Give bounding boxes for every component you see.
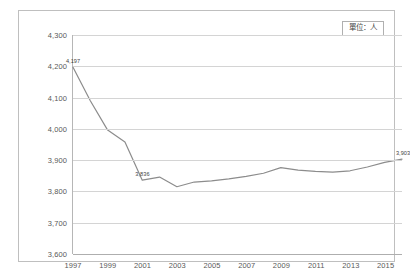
plot-area: 4,3004,2004,1004,0003,9003,8003,7003,600…	[72, 35, 402, 254]
y-axis-tick-label: 4,000	[48, 124, 67, 133]
gridline-y-4300	[73, 35, 402, 36]
gridline-y-3900	[73, 160, 402, 161]
x-axis-tick-label: 2007	[238, 261, 255, 270]
y-axis-tick-label: 3,700	[48, 218, 67, 227]
data-point-label: 4,197	[66, 58, 80, 64]
x-axis-tick-label: 1999	[99, 261, 116, 270]
unit-annotation-box: 單位：人	[342, 21, 384, 36]
unit-annotation-label: 單位：人	[349, 23, 377, 32]
gridline-y-3800	[73, 191, 402, 192]
y-axis-tick-label: 3,900	[48, 156, 67, 165]
y-axis-tick-label: 3,800	[48, 187, 67, 196]
x-axis-tick-label: 2005	[203, 261, 220, 270]
gridline-y-3600	[73, 254, 402, 255]
gridline-y-4200	[73, 66, 402, 67]
chart-frame: 單位：人 4,3004,2004,1004,0003,9003,8003,700…	[18, 10, 395, 262]
x-axis-tick-label: 2011	[308, 261, 325, 270]
x-axis-tick-label: 2009	[273, 261, 290, 270]
x-axis-tick-label: 1997	[64, 261, 81, 270]
y-axis-tick-label: 4,200	[48, 62, 67, 71]
x-axis-tick-label: 2015	[377, 261, 394, 270]
x-axis-tick-label: 2013	[342, 261, 359, 270]
series-line	[73, 67, 402, 187]
y-axis-tick-label: 4,100	[48, 93, 67, 102]
gridline-y-4100	[73, 98, 402, 99]
data-point-label: 3,836	[135, 171, 149, 177]
data-point-label: 3,903	[396, 150, 410, 156]
gridline-y-4000	[73, 129, 402, 130]
y-axis-tick-label: 4,300	[48, 31, 67, 40]
series-line-chart	[73, 35, 402, 254]
y-axis-tick-label: 3,600	[48, 250, 67, 259]
gridline-y-3700	[73, 223, 402, 224]
x-axis-tick-label: 2001	[134, 261, 151, 270]
x-axis-tick-label: 2003	[169, 261, 186, 270]
